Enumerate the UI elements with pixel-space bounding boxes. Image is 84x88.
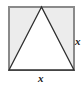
side-label-right: x bbox=[75, 36, 81, 47]
side-label-bottom: x bbox=[38, 73, 44, 84]
geometry-figure: x x bbox=[0, 0, 84, 88]
